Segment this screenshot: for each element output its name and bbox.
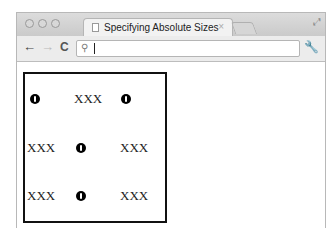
grid-text: XXX bbox=[74, 91, 102, 107]
search-icon: ⚲ bbox=[81, 42, 88, 53]
dot-icon bbox=[30, 94, 40, 104]
grid-text: XXX bbox=[120, 140, 148, 156]
back-button[interactable]: ← bbox=[23, 40, 36, 54]
reload-button[interactable]: C bbox=[60, 40, 69, 54]
grid-text: XXX bbox=[27, 188, 55, 204]
zoom-window-button[interactable] bbox=[51, 19, 60, 28]
close-window-button[interactable] bbox=[25, 19, 34, 28]
wrench-menu-icon[interactable]: 🔧 bbox=[304, 40, 319, 54]
forward-button[interactable]: → bbox=[41, 40, 54, 54]
dot-icon bbox=[76, 143, 86, 153]
tab-title: Specifying Absolute Sizes bbox=[104, 22, 219, 33]
address-input[interactable] bbox=[93, 42, 293, 55]
new-tab-button[interactable] bbox=[231, 22, 257, 34]
tab-active[interactable]: Specifying Absolute Sizes × bbox=[83, 18, 233, 36]
bordered-box: XXX XXX XXX XXX XXX bbox=[23, 72, 167, 223]
page-icon bbox=[92, 23, 99, 32]
browser-window: Specifying Absolute Sizes × ⤢ ← → C ⚲ 🔧 … bbox=[16, 12, 326, 228]
page-content: XXX XXX XXX XXX XXX bbox=[17, 62, 325, 228]
grid-text: XXX bbox=[120, 188, 148, 204]
address-bar[interactable]: ⚲ bbox=[76, 40, 300, 57]
tab-close-icon[interactable]: × bbox=[218, 21, 224, 32]
window-controls bbox=[25, 19, 60, 28]
grid-text: XXX bbox=[27, 140, 55, 156]
dot-icon bbox=[121, 94, 131, 104]
dot-icon bbox=[76, 191, 86, 201]
tab-bar: Specifying Absolute Sizes × ⤢ bbox=[17, 13, 325, 36]
toolbar: ← → C ⚲ 🔧 bbox=[17, 36, 325, 62]
fullscreen-icon[interactable]: ⤢ bbox=[313, 16, 321, 28]
text-caret bbox=[94, 43, 95, 54]
minimize-window-button[interactable] bbox=[38, 19, 47, 28]
